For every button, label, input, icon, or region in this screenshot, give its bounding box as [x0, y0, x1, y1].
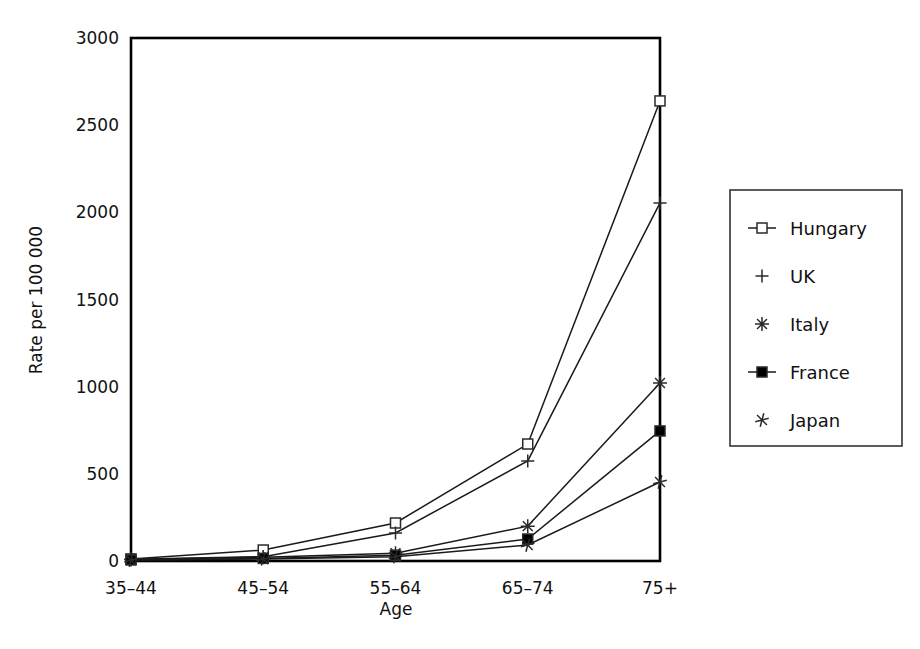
data-point	[655, 426, 665, 436]
chart-figure: 050010001500200025003000 35–4445–5455–64…	[0, 0, 920, 649]
legend-marker-open-square	[757, 223, 767, 233]
x-axis-title: Age	[380, 599, 413, 619]
x-tick-label: 75+	[642, 578, 678, 598]
legend-label: Japan	[789, 410, 840, 431]
line-chart: 050010001500200025003000 35–4445–5455–64…	[0, 0, 920, 649]
legend: HungaryUKItalyFranceJapan	[730, 190, 902, 446]
legend-label: UK	[790, 266, 816, 287]
y-tick-label: 2500	[76, 115, 119, 135]
series-line	[131, 431, 660, 560]
plot-frame	[131, 38, 660, 561]
series-france	[126, 426, 665, 565]
series-line	[131, 101, 660, 559]
data-point	[653, 376, 667, 390]
legend-marker-filled-square	[757, 367, 767, 377]
data-point	[523, 439, 533, 449]
data-point	[521, 454, 534, 467]
series-line	[131, 203, 660, 559]
y-tick-label: 1000	[76, 377, 119, 397]
y-tick-label: 3000	[76, 28, 119, 48]
data-point	[654, 196, 667, 209]
x-tick-label: 65–74	[502, 578, 554, 598]
data-point	[521, 519, 535, 533]
x-tick-label: 55–64	[370, 578, 422, 598]
x-axis-tick-labels: 35–4445–5455–6465–7475+	[105, 578, 678, 598]
data-point	[655, 96, 665, 106]
legend-label: Italy	[790, 314, 829, 335]
data-series-layer	[124, 96, 667, 567]
legend-label: Hungary	[790, 218, 867, 239]
legend-marker-asterisk	[755, 317, 769, 331]
x-tick-label: 35–44	[105, 578, 157, 598]
legend-label: France	[790, 362, 850, 383]
y-tick-label: 500	[87, 464, 119, 484]
y-tick-label: 2000	[76, 202, 119, 222]
x-tick-label: 45–54	[237, 578, 289, 598]
y-axis-tick-labels: 050010001500200025003000	[76, 28, 119, 571]
y-tick-label: 1500	[76, 290, 119, 310]
y-axis-title: Rate per 100 000	[26, 226, 46, 374]
series-uk	[125, 196, 667, 565]
y-tick-label: 0	[108, 551, 119, 571]
